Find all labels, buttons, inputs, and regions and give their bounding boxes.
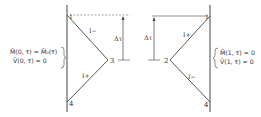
- i-minus-label: I−: [188, 73, 196, 80]
- boundary-condition-moment: M̄(0, τ) = M̄₀(τ): [10, 48, 57, 55]
- point-4-label: 4: [204, 101, 209, 109]
- characteristic-line-3-4: [67, 60, 108, 102]
- left-panel: 1 3 4 I− I+ Δτ M̄(0, τ) = M̄₀(τ) V̄(0, τ…: [10, 5, 130, 112]
- characteristics-diagram: 1 3 4 I− I+ Δτ M̄(0, τ) = M̄₀(τ) V̄(0, τ…: [0, 0, 261, 117]
- right-brace-icon: [61, 47, 66, 68]
- i-plus-label: I+: [183, 31, 191, 38]
- right-panel: 1 2 4 I+ I− Δτ M̄(1, τ) = 0 V̄(1, τ) = 0: [144, 5, 255, 112]
- boundary-condition-shear: V̄(0, τ) = 0: [13, 57, 47, 64]
- boundary-condition-shear: V̄(1, τ) = 0: [220, 58, 254, 65]
- delta-arrow-head-up-icon: [153, 17, 156, 21]
- left-brace-icon: [213, 48, 218, 68]
- delta-arrow-head-up-icon: [122, 16, 125, 20]
- point-1-label: 1: [205, 13, 209, 20]
- i-minus-label: I−: [89, 27, 97, 34]
- point-3-label: 3: [110, 57, 114, 65]
- point-1-label: 1: [69, 13, 73, 20]
- point-2-label: 2: [164, 57, 168, 65]
- i-plus-label: I+: [82, 72, 90, 79]
- characteristic-line-1-3: [67, 15, 108, 60]
- delta-tau-label: Δτ: [144, 34, 153, 42]
- boundary-condition-moment: M̄(1, τ) = 0: [220, 49, 255, 56]
- delta-tau-label: Δτ: [114, 35, 123, 43]
- characteristic-line-2-4: [170, 60, 210, 102]
- point-4-label: 4: [69, 100, 74, 108]
- characteristic-line-1-2: [170, 16, 210, 60]
